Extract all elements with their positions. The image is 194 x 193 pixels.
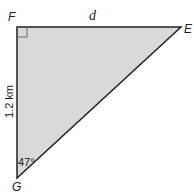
vertex-label-f: F <box>8 10 16 24</box>
angle-label-g: 47° <box>18 156 35 168</box>
vertex-label-g: G <box>12 180 21 193</box>
side-label-fg: 1.2 km <box>3 85 15 118</box>
side-label-d: d <box>89 8 97 23</box>
triangle-diagram: F E G d 1.2 km 47° <box>0 0 194 193</box>
vertex-label-e: E <box>184 22 193 36</box>
triangle-fge <box>17 27 181 178</box>
